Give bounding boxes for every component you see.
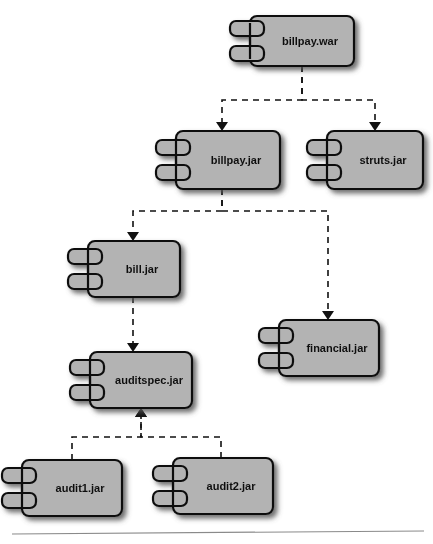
component-port-lug-2 [307, 165, 341, 180]
component-port-lug-2 [156, 165, 190, 180]
component-port-lug-1 [259, 328, 293, 343]
component-diagram-svg: billpay.warbillpay.jarstruts.jarbill.jar… [0, 0, 433, 544]
component-port-lug-1 [230, 21, 264, 36]
component-label: billpay.war [282, 35, 339, 47]
component-label: audit1.jar [56, 482, 106, 494]
component-port-lug-1 [153, 466, 187, 481]
component-label: bill.jar [126, 263, 159, 275]
component-label: billpay.jar [211, 154, 262, 166]
component-port-lug-1 [68, 249, 102, 264]
component-port-lug-2 [230, 46, 264, 61]
component-port-lug-2 [68, 274, 102, 289]
component-label: audit2.jar [207, 480, 257, 492]
component-port-lug-2 [2, 493, 36, 508]
component-port-lug-1 [307, 140, 341, 155]
component-port-lug-1 [156, 140, 190, 155]
component-diagram-canvas: billpay.warbillpay.jarstruts.jarbill.jar… [0, 0, 433, 544]
component-port-lug-2 [259, 353, 293, 368]
component-label: auditspec.jar [115, 374, 184, 386]
component-label: struts.jar [359, 154, 407, 166]
component-port-lug-2 [70, 385, 104, 400]
component-port-lug-2 [153, 491, 187, 506]
component-label: financial.jar [306, 342, 368, 354]
component-port-lug-1 [2, 468, 36, 483]
component-port-lug-1 [70, 360, 104, 375]
